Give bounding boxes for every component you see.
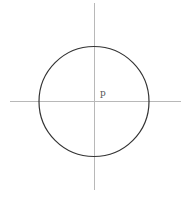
center-label: p	[100, 88, 106, 98]
circle-diagram: p	[0, 0, 181, 197]
